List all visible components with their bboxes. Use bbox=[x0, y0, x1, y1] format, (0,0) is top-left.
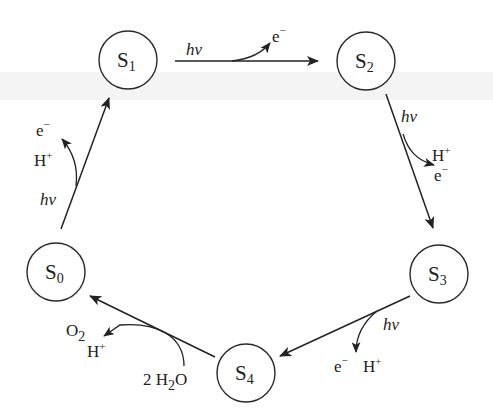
hv-label-s3-s4: hν bbox=[383, 315, 400, 334]
oxygen-label: O2 bbox=[66, 321, 85, 344]
edge-s3-s4: hν e− H+ bbox=[280, 296, 410, 376]
state-node-s0: S0 bbox=[27, 243, 85, 301]
edge-s2-s3: hν H+ e− bbox=[386, 94, 451, 228]
state-node-s1: S1 bbox=[99, 31, 157, 89]
state-node-s4: S4 bbox=[217, 344, 275, 402]
proton-label-s3-s4: H+ bbox=[363, 355, 382, 376]
arrow-s4-to-s0 bbox=[90, 296, 215, 357]
electron-label-s1-s2: e− bbox=[272, 24, 286, 46]
release-arrow-s3-s4 bbox=[356, 311, 377, 352]
hv-label-s1-s2: hν bbox=[186, 40, 203, 59]
electron-label-s2-s3: e− bbox=[434, 163, 448, 185]
water-label: 2 H2O bbox=[143, 370, 187, 393]
release-arrow-s2-s3 bbox=[403, 134, 434, 165]
state-node-s2: S2 bbox=[337, 32, 395, 90]
electron-label-s3-s4: e− bbox=[334, 354, 348, 376]
state-node-s3: S3 bbox=[410, 245, 468, 303]
arrow-s0-to-s1 bbox=[61, 98, 109, 229]
proton-label-s0-s1: H+ bbox=[34, 149, 53, 170]
release-arrow-s0-s1 bbox=[62, 139, 76, 186]
edge-s4-s0: O2 H+ 2 H2O bbox=[66, 296, 215, 393]
s-state-cycle-diagram: hν H+ e− hν e− hν H+ e− hν e− H+ O2 H+ 2… bbox=[0, 0, 493, 420]
hv-label-s2-s3: hν bbox=[401, 107, 418, 126]
background-band bbox=[0, 72, 493, 100]
release-arrow-s1-s2 bbox=[232, 43, 270, 61]
water-oxidation-arrow bbox=[104, 325, 184, 366]
proton-label-s2-s3: H+ bbox=[432, 144, 451, 165]
edge-s1-s2: hν e− bbox=[175, 24, 318, 61]
electron-label-s0-s1: e− bbox=[36, 118, 50, 140]
edge-s0-s1: hν H+ e− bbox=[34, 98, 109, 229]
hv-label-s0-s1: hν bbox=[40, 190, 57, 209]
proton-label-s4-s0: H+ bbox=[87, 340, 106, 361]
